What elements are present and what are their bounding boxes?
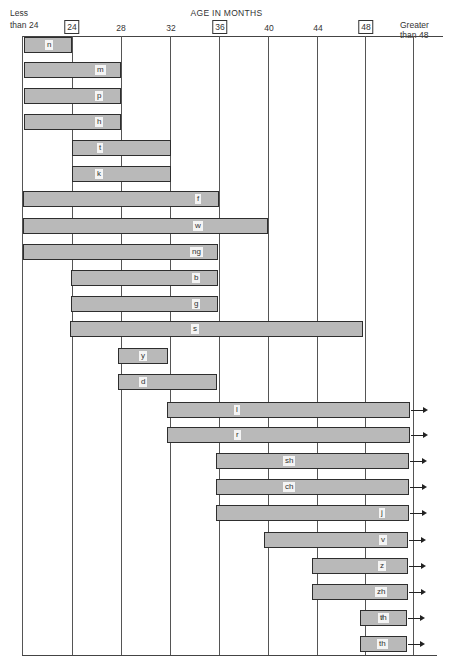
sound-bar: sh (216, 453, 409, 469)
tick-44: 44 (313, 23, 322, 33)
sound-bar: th (360, 636, 407, 652)
sound-label: f (195, 194, 201, 204)
sound-bar: d (118, 374, 217, 390)
gridline-40 (268, 36, 269, 655)
sound-label: ng (190, 247, 203, 257)
arrow-right-icon (411, 435, 425, 436)
sound-label: z (378, 561, 386, 571)
axis-top-line (22, 36, 443, 37)
tick-32: 32 (166, 23, 175, 33)
sound-bar: y (118, 348, 168, 364)
sound-label: p (95, 91, 103, 101)
arrow-right-icon (411, 410, 425, 411)
less-than-24-label: Less than 24 (10, 8, 38, 30)
gridline-32 (170, 36, 171, 655)
sound-label: k (95, 169, 103, 179)
sound-label: r (234, 430, 241, 440)
sound-label: t (97, 143, 103, 153)
greater-than-line1: Greater (400, 20, 429, 30)
sound-bar: t (72, 140, 171, 156)
arrow-right-icon (410, 461, 424, 462)
sound-label: h (95, 117, 103, 127)
sound-bar: n (24, 37, 72, 53)
sound-label: v (379, 535, 387, 545)
sound-bar: w (23, 218, 268, 234)
less-than-line2: than 24 (10, 20, 38, 30)
chart-title: AGE IN MONTHS (0, 8, 453, 18)
sound-label: m (95, 65, 106, 75)
sound-label: j (379, 508, 385, 518)
sound-bar: k (72, 166, 171, 182)
arrow-right-icon (408, 644, 422, 645)
sound-label: th (377, 639, 388, 649)
sound-bar: g (71, 296, 218, 312)
sound-bar: b (71, 270, 218, 286)
greater-than-line2: than 48 (400, 30, 429, 40)
arrow-right-icon (409, 566, 423, 567)
sound-label: b (192, 273, 200, 283)
sound-label: n (45, 40, 53, 50)
sound-label: y (139, 351, 147, 361)
tick-48: 48 (358, 20, 373, 34)
sound-bar: ng (23, 244, 218, 260)
gridline-greater-48 (413, 36, 414, 655)
sound-label: ch (283, 482, 295, 492)
tick-40: 40 (264, 23, 273, 33)
gridline-36 (219, 36, 220, 655)
arrow-right-icon (410, 487, 424, 488)
sound-label: d (139, 377, 147, 387)
tick-28: 28 (116, 23, 125, 33)
gridline-less-24 (22, 36, 23, 655)
sound-bar: t̸h (360, 610, 407, 626)
axis-bottom-line (22, 655, 437, 656)
sound-bar: z (312, 558, 408, 574)
sound-bar: r (167, 427, 410, 443)
sound-bar: ch (216, 479, 409, 495)
greater-than-48-label: Greater than 48 (400, 20, 429, 40)
less-than-line1: Less (10, 8, 38, 18)
sound-label: l (234, 405, 240, 415)
sound-bar: l (167, 402, 410, 418)
sound-bar: s (70, 321, 363, 337)
sound-bar: h (24, 114, 121, 130)
tick-36: 36 (212, 20, 227, 34)
sound-label: zh (375, 587, 387, 597)
sound-bar: f (23, 191, 219, 207)
arrow-right-icon (409, 592, 423, 593)
sound-bar: p (24, 88, 121, 104)
arrow-right-icon (408, 618, 422, 619)
sound-bar: m (24, 62, 121, 78)
arrow-right-icon (409, 540, 423, 541)
sound-bar: zh (312, 584, 408, 600)
tick-24: 24 (64, 20, 79, 34)
sound-label: t̸h (378, 613, 389, 623)
gridline-28 (121, 36, 122, 655)
sound-label: s (191, 324, 199, 334)
sound-label: g (192, 299, 200, 309)
arrow-right-icon (410, 513, 424, 514)
sound-label: sh (283, 456, 295, 466)
sound-label: w (193, 221, 203, 231)
sound-bar: v (264, 532, 408, 548)
sound-bar: j (216, 505, 409, 521)
